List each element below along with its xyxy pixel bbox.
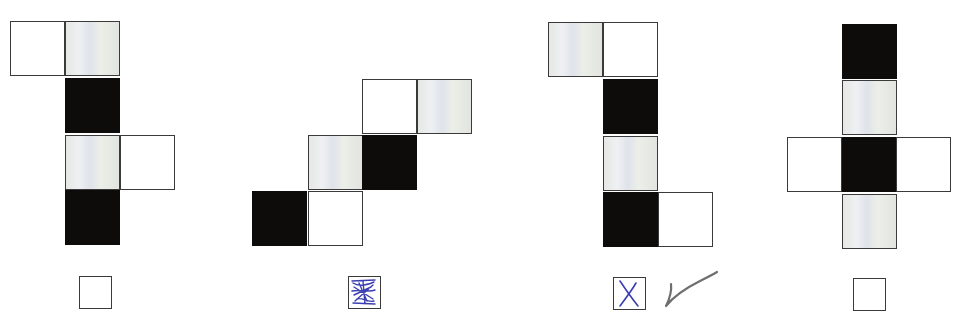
answer-checkbox-option-2[interactable]: [348, 276, 381, 309]
net-face-gray: [548, 22, 603, 77]
net-face-gray: [65, 135, 120, 190]
net-face-black: [842, 24, 897, 79]
net-face-black: [362, 135, 417, 190]
answer-checkbox-option-4[interactable]: [853, 278, 886, 311]
net-face-black: [603, 192, 658, 247]
check-mark-icon: [662, 266, 722, 316]
net-face-white: [787, 137, 842, 192]
net-face-white: [308, 191, 363, 246]
net-face-gray: [65, 21, 120, 76]
x-mark-icon: [614, 278, 644, 308]
net-face-white: [362, 79, 417, 134]
net-face-white: [658, 192, 713, 247]
net-face-black: [842, 137, 897, 192]
net-face-black: [603, 79, 658, 134]
net-face-black: [65, 78, 120, 133]
answer-checkbox-option-1[interactable]: [79, 276, 112, 309]
net-face-black: [65, 190, 120, 245]
net-face-white: [603, 22, 658, 77]
net-face-gray: [417, 79, 472, 134]
net-face-white: [120, 135, 175, 190]
net-face-white: [10, 21, 65, 76]
net-face-white: [896, 137, 951, 192]
scribble-icon: [349, 277, 379, 307]
net-face-gray: [842, 194, 897, 249]
net-face-black: [252, 191, 307, 246]
net-face-gray: [308, 135, 363, 190]
net-face-gray: [603, 136, 658, 191]
net-face-gray: [842, 80, 897, 135]
answer-checkbox-option-3[interactable]: [613, 277, 646, 310]
